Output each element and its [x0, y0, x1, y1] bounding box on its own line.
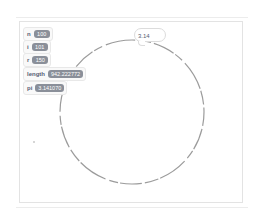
- monitor-label: n: [27, 29, 31, 39]
- monitor-label: pi: [27, 83, 32, 93]
- sprite[interactable]: [33, 141, 35, 143]
- monitor-value: 101: [32, 43, 48, 51]
- variable-monitor-pi[interactable]: pi 3.141070: [23, 81, 67, 95]
- pen-drawn-circle: [20, 22, 244, 204]
- monitor-value: 150: [32, 56, 48, 64]
- monitor-value: 100: [34, 30, 50, 38]
- variable-monitor-length[interactable]: length 942.222772: [23, 67, 86, 81]
- stage-top-border: [16, 17, 248, 18]
- monitor-label: i: [27, 42, 29, 52]
- variable-monitor-i[interactable]: i 101: [23, 40, 51, 54]
- monitor-value: 942.222772: [48, 70, 83, 78]
- variable-monitor-r[interactable]: r 150: [23, 53, 51, 67]
- variable-monitor-n[interactable]: n 100: [23, 27, 53, 41]
- speech-bubble-tail: [138, 41, 145, 46]
- speech-bubble: 3.14: [134, 28, 166, 42]
- stage[interactable]: n 100 i 101 r 150 length 942.222772 pi 3…: [19, 21, 243, 203]
- stage-bottom-border: [16, 207, 248, 208]
- monitor-label: r: [27, 55, 29, 65]
- monitor-value: 3.141070: [35, 84, 64, 92]
- monitor-label: length: [27, 69, 45, 79]
